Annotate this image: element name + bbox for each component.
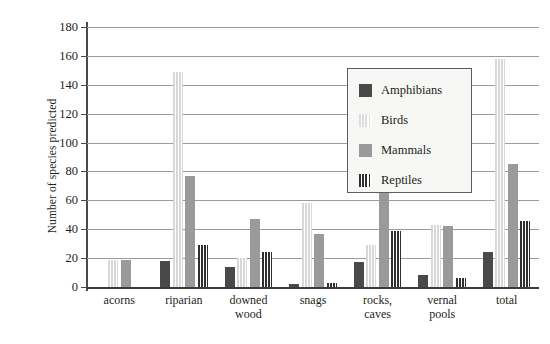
y-axis-tick-mark: [81, 287, 87, 288]
y-axis-tick-mark: [81, 229, 87, 230]
bar-birds: [495, 59, 505, 287]
y-axis-tick-mark: [81, 85, 87, 86]
bar-mammals: [379, 190, 389, 287]
gridline: [87, 200, 539, 201]
y-axis-tick-label: 80: [66, 164, 79, 179]
bar-amphibians: [160, 261, 170, 287]
bar-amphibians: [225, 267, 235, 287]
legend-item-reptiles[interactable]: Reptiles: [359, 173, 422, 187]
gridline: [87, 229, 539, 230]
x-axis-label: snags: [300, 293, 327, 307]
bar-reptiles: [391, 231, 401, 287]
x-axis-label: vernal pools: [427, 293, 457, 321]
bar-amphibians: [483, 252, 493, 287]
legend-label: Reptiles: [381, 173, 422, 188]
bar-mammals: [250, 219, 260, 287]
y-axis-tick-label: 100: [59, 135, 78, 150]
bar-reptiles: [520, 221, 530, 287]
x-axis-label: total: [496, 293, 517, 307]
bar-birds: [431, 225, 441, 287]
x-axis-label: downed wood: [229, 293, 267, 321]
bar-amphibians: [289, 284, 299, 287]
bar-birds: [108, 260, 118, 287]
y-axis-tick-label: 60: [66, 193, 79, 208]
bar-mammals: [121, 260, 131, 287]
y-axis-tick-mark: [81, 200, 87, 201]
bar-mammals: [185, 176, 195, 287]
y-axis-tick-mark: [81, 27, 87, 28]
y-axis-title: Number of species predicted: [46, 51, 58, 281]
y-axis-tick-label: 20: [66, 251, 79, 266]
bar-reptiles: [327, 283, 337, 287]
bar-birds: [237, 258, 247, 287]
y-axis-tick-label: 0: [72, 280, 78, 295]
gridline: [87, 27, 539, 28]
bar-chart: Number of species predicted 020406080100…: [0, 0, 550, 344]
y-axis-tick-mark: [81, 114, 87, 115]
legend-swatch-icon: [359, 114, 372, 127]
legend-label: Amphibians: [381, 83, 442, 98]
y-axis-tick-label: 40: [66, 222, 79, 237]
y-axis-tick-mark: [81, 171, 87, 172]
bar-amphibians: [418, 275, 428, 287]
y-axis-tick-mark: [81, 143, 87, 144]
bar-amphibians: [354, 262, 364, 287]
bar-reptiles: [456, 278, 466, 287]
bar-reptiles: [198, 245, 208, 287]
x-axis-label: rocks, caves: [363, 293, 392, 321]
legend-swatch-icon: [359, 174, 372, 187]
bar-mammals: [443, 226, 453, 287]
legend-label: Mammals: [381, 143, 431, 158]
y-axis-tick-label: 160: [59, 48, 78, 63]
bar-birds: [302, 203, 312, 287]
y-axis-tick-label: 180: [59, 20, 78, 35]
x-axis-label: riparian: [165, 293, 202, 307]
y-axis-tick-label: 140: [59, 77, 78, 92]
x-axis-baseline: [87, 287, 539, 289]
legend-item-birds[interactable]: Birds: [359, 113, 408, 127]
plot-area: 020406080100120140160180 acornsripariand…: [87, 27, 539, 287]
legend-item-amphibians[interactable]: Amphibians: [359, 83, 442, 97]
bar-birds: [366, 245, 376, 287]
gridline: [87, 56, 539, 57]
legend-item-mammals[interactable]: Mammals: [359, 143, 431, 157]
gridline: [87, 258, 539, 259]
legend-label: Birds: [381, 113, 408, 128]
x-axis-label: acorns: [104, 293, 135, 307]
bar-birds: [173, 72, 183, 287]
legend: AmphibiansBirdsMammalsReptiles: [347, 68, 472, 193]
legend-swatch-icon: [359, 144, 372, 157]
bar-mammals: [508, 164, 518, 287]
bar-mammals: [314, 234, 324, 287]
y-axis-tick-label: 120: [59, 106, 78, 121]
bar-reptiles: [262, 252, 272, 287]
y-axis-tick-mark: [81, 56, 87, 57]
legend-swatch-icon: [359, 84, 372, 97]
y-axis-tick-mark: [81, 258, 87, 259]
